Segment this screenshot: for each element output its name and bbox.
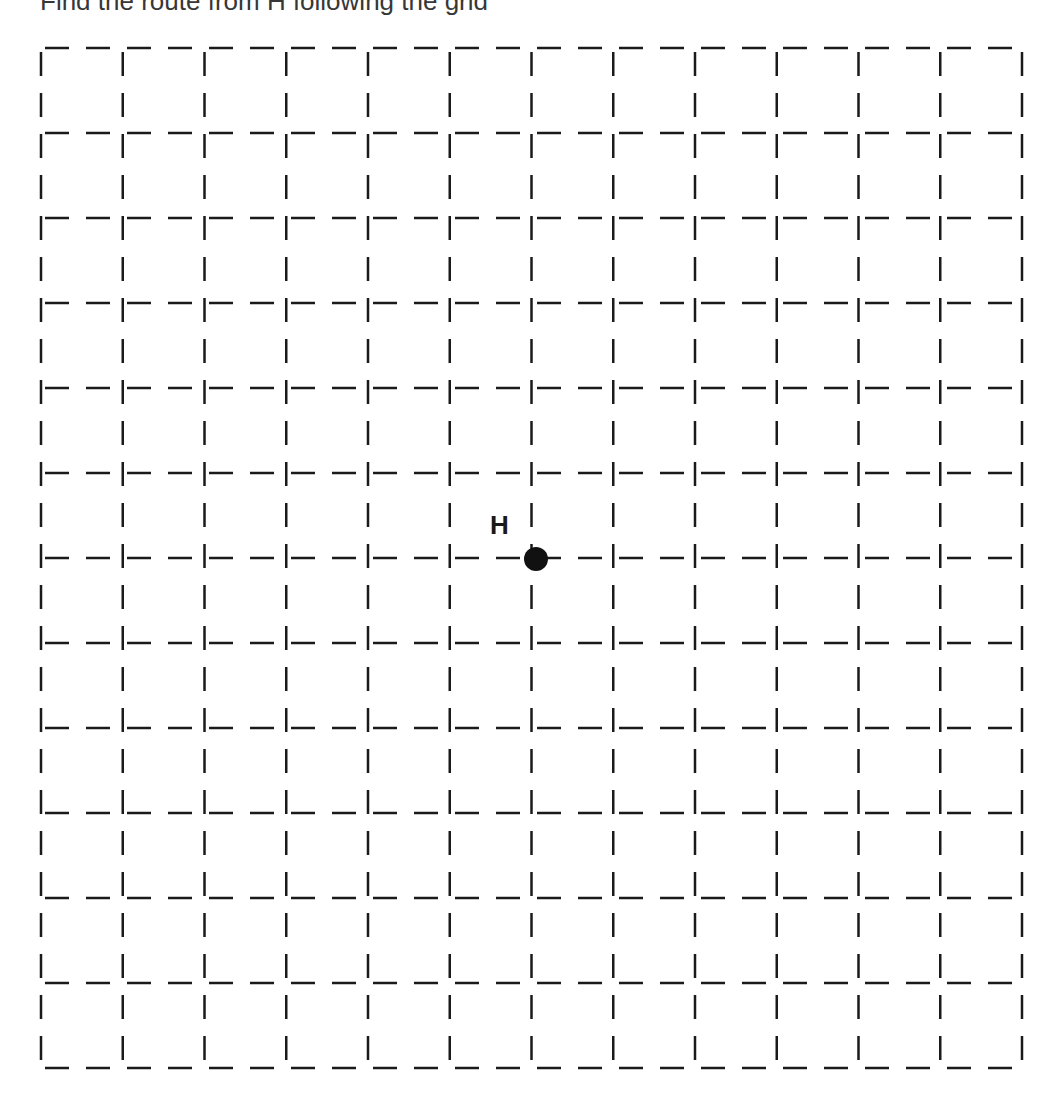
- point-label-h: H: [490, 510, 509, 541]
- dashed-grid: [0, 0, 1063, 1113]
- point-h-dot: [524, 547, 548, 571]
